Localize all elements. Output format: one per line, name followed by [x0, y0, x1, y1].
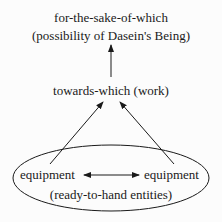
diagram-canvas: /* marker-start orientation fix */ for-t…	[0, 0, 222, 222]
middle-node-label: towards-which (work)	[0, 84, 222, 98]
top-node-title: for-the-sake-of-which	[0, 11, 222, 25]
ready-to-hand-caption: (ready-to-hand entities)	[0, 188, 222, 202]
top-node-subtitle: (possibility of Dasein's Being)	[0, 29, 222, 43]
equipment-left-label: equipment	[20, 168, 75, 182]
equipment-right-label: equipment	[144, 168, 199, 182]
arrow-left-equipment-to-towards-which	[50, 102, 103, 164]
arrow-right-equipment-to-towards-which	[120, 102, 174, 164]
